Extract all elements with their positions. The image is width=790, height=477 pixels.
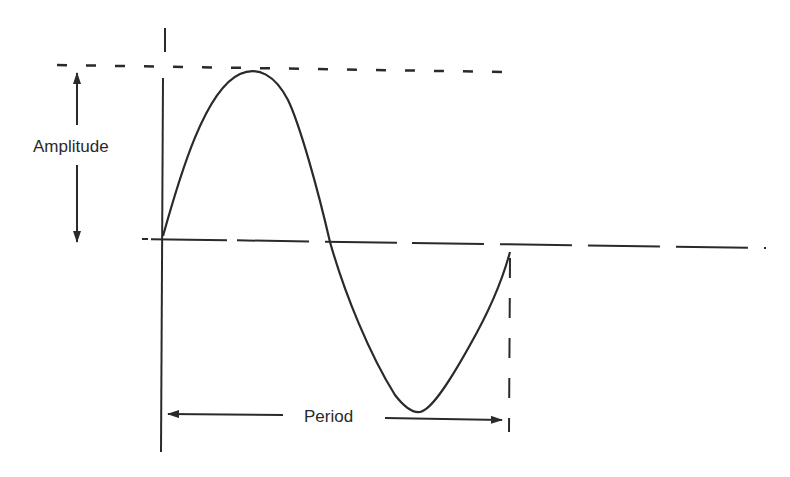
sine-wave-diagram: Amplitude Period [0, 0, 790, 477]
diagram-canvas [0, 0, 790, 477]
peak-reference-line [57, 65, 506, 72]
amplitude-label: Amplitude [33, 137, 109, 157]
period-end-line [509, 258, 510, 432]
period-label: Period [304, 407, 353, 427]
baseline [142, 239, 766, 248]
